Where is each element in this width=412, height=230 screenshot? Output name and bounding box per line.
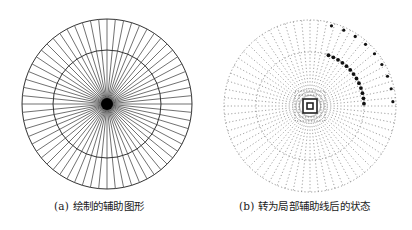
radial-circle-diagram-solid [0, 0, 206, 230]
figure-b-local-auxiliary-state: (b) 转为局部辅助线后的状态 [206, 0, 412, 230]
caption-b: (b) 转为局部辅助线后的状态 [239, 198, 370, 213]
figure-a-auxiliary-graphic: (a) 绘制的辅助图形 [0, 0, 206, 230]
center-hub [101, 98, 113, 110]
dashed-ray-lines [224, 20, 396, 192]
radial-circle-diagram-dashed [206, 0, 412, 230]
caption-a: (a) 绘制的辅助图形 [54, 198, 144, 213]
